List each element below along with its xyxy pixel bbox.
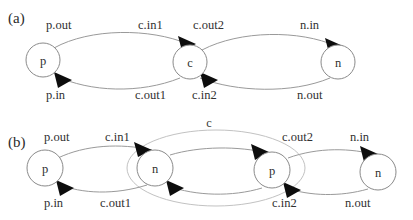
figure-canvas: .arc{fill:none;stroke:#9a9a9a;stroke-wid…	[0, 0, 413, 220]
panel-b-edges	[58, 146, 376, 194]
panel-tag-b: (b)	[8, 134, 26, 151]
edge-label-c-in2-a: c.in2	[192, 88, 217, 103]
edge-p-out-to-c-in1	[54, 32, 188, 48]
node-label-p-a: p	[40, 54, 46, 69]
panel-b-nodes	[27, 150, 396, 190]
arrowhead-b-p-in	[56, 180, 74, 196]
node-label-c-a: c	[187, 56, 193, 71]
edge-label-n-in-b: n.in	[350, 130, 369, 145]
node-label-n-a: n	[335, 56, 341, 71]
node-label-n-b4: n	[375, 166, 381, 181]
edge-c-out2-to-n-in	[202, 34, 336, 50]
panel-tag-a: (a)	[8, 10, 25, 27]
diagram-svg: .arc{fill:none;stroke:#9a9a9a;stroke-wid…	[0, 0, 413, 220]
panel-b-arrowheads	[56, 142, 378, 198]
edge-label-c-out1-a: c.out1	[135, 88, 166, 103]
edge-label-p-in-b: p.in	[44, 196, 63, 211]
group-label-c: c	[206, 116, 212, 131]
node-label-p-b1: p	[42, 162, 48, 177]
edge-label-n-out-a: n.out	[297, 88, 322, 103]
edge-label-c-out1-b: c.out1	[100, 196, 131, 211]
arrowhead-c-in2	[200, 72, 218, 88]
arrowhead-p-in	[54, 72, 72, 88]
arrowhead-b-inner-bottom	[166, 180, 184, 196]
edge-label-n-in-a: n.in	[300, 18, 319, 33]
edge-label-c-in1-b: c.in1	[105, 130, 130, 145]
edge-label-c-out2-a: c.out2	[193, 18, 224, 33]
node-label-p-b3: p	[269, 164, 275, 179]
edge-label-n-out-b: n.out	[345, 196, 370, 211]
edge-label-p-out-b: p.out	[44, 130, 69, 145]
edge-label-c-out2-b: c.out2	[282, 130, 313, 145]
node-label-n-b2: n	[152, 162, 158, 177]
edge-label-c-in1-a: c.in1	[138, 18, 163, 33]
edge-label-c-in2-b: c.in2	[272, 196, 297, 211]
edge-label-p-in-a: p.in	[46, 88, 65, 103]
edge-label-p-out-a: p.out	[46, 18, 71, 33]
